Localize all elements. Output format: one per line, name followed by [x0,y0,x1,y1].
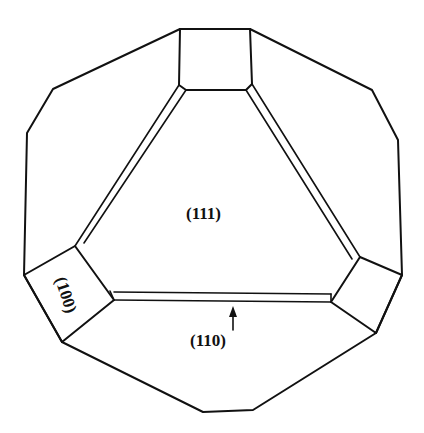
crystal-diagram: (111) (100) (110) [0,0,424,433]
left-110-band [75,85,186,246]
label-100: (100) [51,274,80,315]
arrow-110-indicator [229,306,237,330]
label-111: (111) [186,204,221,223]
right-square-face [331,257,402,333]
label-110: (110) [190,331,226,350]
bottom-110-band [110,291,331,302]
right-110-band [246,84,360,259]
top-square-face [179,29,252,90]
